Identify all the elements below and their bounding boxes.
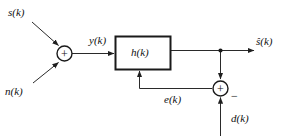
signal-label-y: y(k) [89, 35, 106, 46]
block-diagram-canvas: + + − s(k) n(k) y(k) h(k) ŝ(k) e(k) d(k… [0, 0, 289, 136]
signal-label-s: s(k) [8, 7, 25, 18]
signal-label-n: n(k) [5, 86, 23, 97]
filter-block-label: h(k) [131, 47, 149, 58]
adder-left-plus-sign: + [58, 48, 71, 60]
wire-s-to-adder [32, 22, 59, 46]
adder-right-plus-sign: + [214, 83, 227, 95]
output-branch-dot [218, 48, 222, 52]
wire-n-to-adder [33, 63, 59, 84]
signal-label-s-hat: ŝ(k) [256, 36, 273, 47]
signal-label-e: e(k) [164, 94, 181, 105]
minus-sign-label: − [231, 90, 238, 102]
signal-label-d: d(k) [231, 113, 249, 124]
